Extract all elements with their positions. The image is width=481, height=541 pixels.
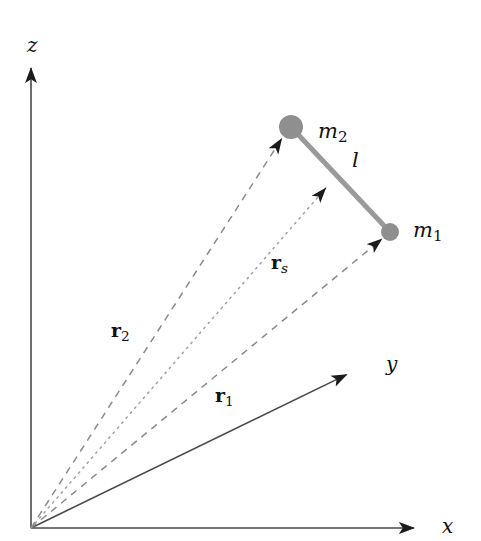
mass-label-m2: m2	[318, 121, 348, 145]
axis-label-y: y	[386, 354, 397, 374]
mass-label-m1-subscript: 1	[433, 227, 443, 245]
vector-rs	[31, 188, 326, 528]
vector-label-r2: r2	[111, 321, 130, 344]
axis-label-x: x	[442, 516, 453, 536]
vector-label-rs-subscript: s	[281, 260, 288, 276]
mass-label-m2-base: m	[318, 119, 338, 143]
axis-label-z: z	[27, 35, 38, 55]
rod-length-label: l	[352, 150, 359, 171]
vector-label-r2-base: r	[111, 319, 121, 341]
mass-m1-marker	[381, 223, 399, 241]
vector-label-r1-subscript: 1	[225, 393, 234, 409]
vector-label-r1: r1	[215, 386, 234, 409]
diagram-svg	[0, 0, 481, 541]
vector-label-rs: rs	[271, 253, 288, 276]
mass-label-m1-base: m	[413, 218, 433, 242]
axis-group	[31, 68, 414, 528]
vector-label-r1-base: r	[215, 384, 225, 406]
axis-y	[31, 375, 347, 528]
vector-group	[31, 139, 382, 528]
vector-r2	[31, 139, 282, 528]
figure-canvas: z y x m2 m1 l r2 rs r1	[0, 0, 481, 541]
mass-label-m1: m1	[413, 220, 443, 244]
vector-label-r2-subscript: 2	[121, 328, 130, 344]
mass-label-m2-subscript: 2	[338, 128, 348, 146]
mass-m2-marker	[279, 115, 303, 139]
vector-label-rs-base: r	[271, 251, 281, 273]
